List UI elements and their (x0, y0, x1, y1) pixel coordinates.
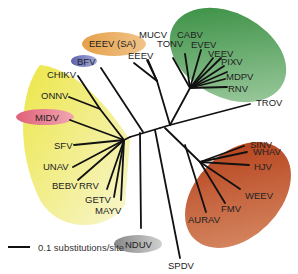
label-aurav: AURAV (188, 214, 221, 225)
label-eeev: EEEV (128, 50, 154, 61)
label-onnv: ONNV (41, 90, 69, 101)
label-mdpv: MDPV (226, 71, 254, 82)
label-chikv: CHIKV (47, 69, 77, 80)
scale-bar: 0.1 substitutions/site (8, 242, 124, 253)
label-spdv: SPDV (168, 260, 195, 271)
label-bebv: BEBV (52, 180, 78, 191)
label-mayv: MAYV (95, 205, 122, 216)
label-getv: GETV (85, 194, 112, 205)
label-midv: MIDV (35, 112, 59, 123)
label-unav: UNAV (43, 161, 69, 172)
label-fmv: FMV (221, 203, 242, 214)
scale-bar-label: 0.1 substitutions/site (38, 242, 124, 253)
label-rnv: RNV (228, 83, 249, 94)
clade-red-highlight (164, 121, 298, 268)
phylogenetic-tree: EEEV (SA) EEEV MUCV CABV TONV EVEV VEEV … (0, 0, 298, 274)
label-bfv: BFV (77, 56, 96, 67)
label-eeev-sa: EEEV (SA) (89, 38, 136, 49)
label-trov: TROV (256, 97, 283, 108)
label-rrv: RRV (79, 180, 100, 191)
label-nduv: NDUV (125, 239, 153, 250)
label-whav: WHAV (253, 146, 281, 157)
label-hjv: HJV (254, 161, 273, 172)
label-weev: WEEV (245, 190, 274, 201)
label-pixv: PIXV (221, 56, 243, 67)
label-sfv: SFV (54, 140, 73, 151)
label-tonv: TONV (157, 38, 184, 49)
